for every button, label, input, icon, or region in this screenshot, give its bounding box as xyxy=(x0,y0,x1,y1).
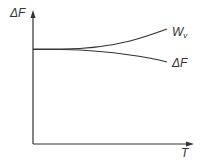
curve-delta-f xyxy=(33,50,167,63)
curve-wv xyxy=(33,29,167,49)
y-axis-label: ΔF xyxy=(10,7,25,19)
curve-label-wv: Wv xyxy=(172,26,187,40)
curve-label-wv-main: W xyxy=(172,25,183,39)
curve-label-delta-f: ΔF xyxy=(172,57,187,69)
y-axis-arrow-icon xyxy=(31,10,36,18)
curve-label-wv-sub: v xyxy=(183,31,187,40)
x-axis-label: T xyxy=(181,147,188,159)
